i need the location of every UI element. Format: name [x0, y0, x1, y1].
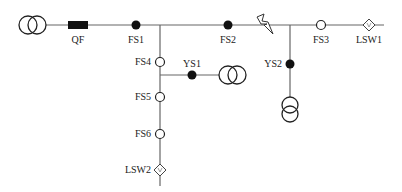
load-transformer-2-icon — [282, 97, 298, 122]
label-fs5: FS5 — [135, 91, 151, 102]
switch-ys2-closed-icon[interactable] — [286, 60, 295, 69]
distribution-network-diagram: QF FS1 FS4 YS1 FS5 FS6 LSW2 FS2 YS2 FS3 — [0, 0, 402, 192]
label-fs3: FS3 — [313, 34, 329, 45]
tie-switch-lsw1-icon[interactable] — [363, 19, 375, 31]
label-ys2: YS2 — [264, 58, 282, 69]
label-qf: QF — [72, 34, 85, 45]
fault-lightning-icon — [257, 14, 273, 34]
label-lsw1: LSW1 — [356, 34, 382, 45]
label-fs6: FS6 — [135, 128, 151, 139]
source-transformer-icon — [19, 16, 46, 34]
load-transformer-1-icon — [219, 66, 246, 84]
label-ys1: YS1 — [183, 58, 201, 69]
switch-fs5-open-icon[interactable] — [156, 93, 165, 102]
tie-switch-lsw2-icon[interactable] — [154, 164, 166, 176]
label-lsw2: LSW2 — [125, 164, 151, 175]
label-fs1: FS1 — [128, 34, 144, 45]
label-fs4: FS4 — [135, 56, 151, 67]
label-fs2: FS2 — [220, 34, 236, 45]
switch-fs2-closed-icon[interactable] — [224, 21, 233, 30]
switch-fs3-open-icon[interactable] — [317, 21, 326, 30]
switch-fs1-closed-icon[interactable] — [132, 21, 141, 30]
switch-ys1-closed-icon[interactable] — [188, 71, 197, 80]
switch-fs4-open-icon[interactable] — [156, 58, 165, 67]
circuit-breaker-qf-icon[interactable] — [68, 21, 88, 29]
switch-fs6-open-icon[interactable] — [156, 130, 165, 139]
